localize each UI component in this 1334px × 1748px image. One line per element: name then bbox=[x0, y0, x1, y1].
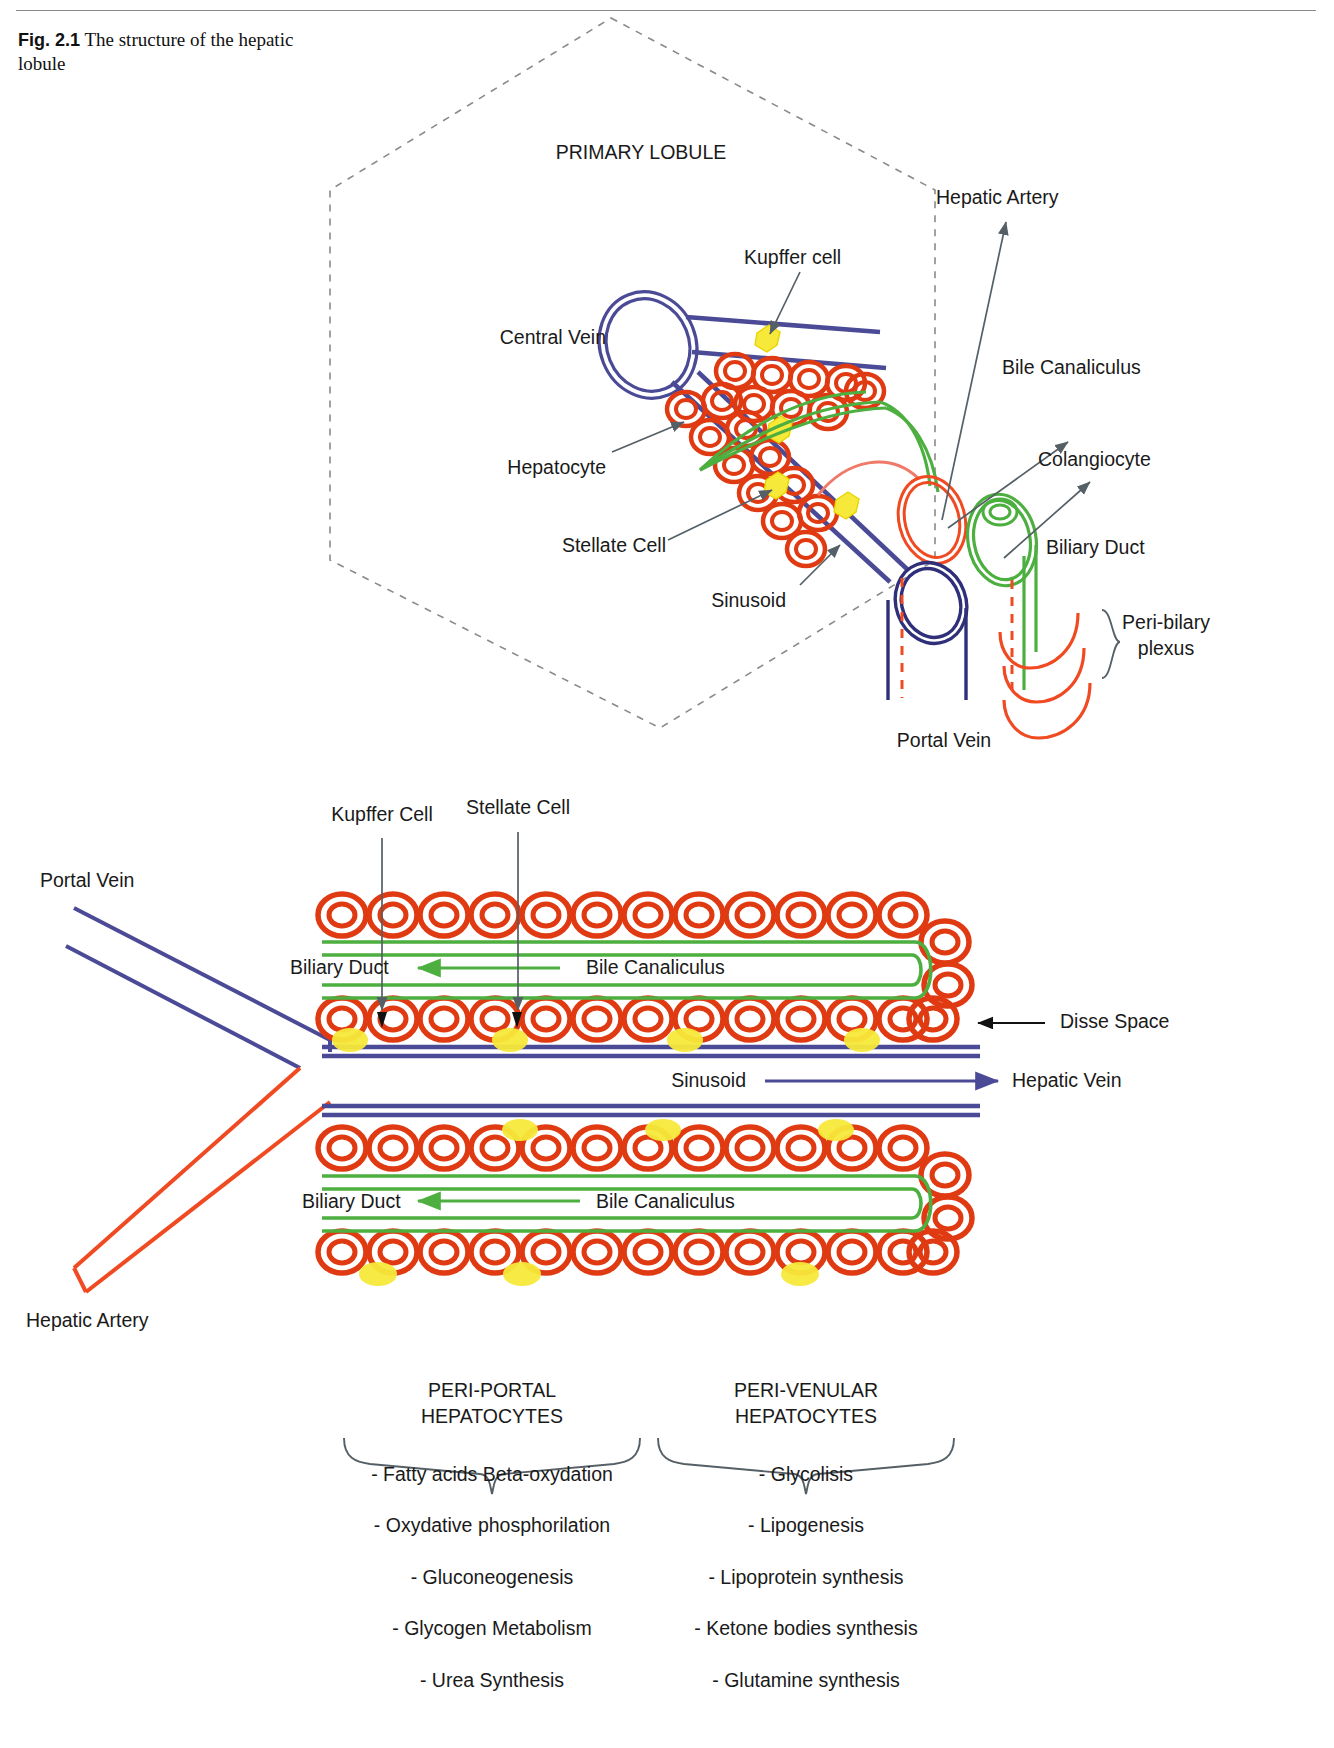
biliary-duct-vessel-top bbox=[961, 489, 1044, 690]
label-kupffer-cell-top: Kupffer cell bbox=[744, 245, 841, 270]
zone-function-item: - Fatty acids Beta-oxydation bbox=[332, 1462, 652, 1488]
label-biliary-duct-top: Biliary Duct bbox=[1046, 535, 1145, 560]
zone-function-item: - Urea Synthesis bbox=[332, 1668, 652, 1694]
zone-function-item: - Ketone bodies synthesis bbox=[646, 1616, 966, 1642]
label-biliary-duct-lower: Biliary Duct bbox=[302, 1189, 401, 1214]
zone-function-item: - Glycogen Metabolism bbox=[332, 1616, 652, 1642]
leader-stellate-top bbox=[668, 490, 772, 540]
label-sinusoid-bottom: Sinusoid bbox=[596, 1068, 746, 1093]
hepatocyte-row-upper-1 bbox=[318, 894, 972, 1006]
label-peribilary-plexus: Peri-bilary plexus bbox=[1082, 610, 1250, 661]
hepatic-artery-vessel-top bbox=[889, 469, 974, 570]
label-hepatic-vein: Hepatic Vein bbox=[1012, 1068, 1122, 1093]
portal-vein-branch-bottom bbox=[66, 908, 330, 1068]
label-portal-vein-bottom: Portal Vein bbox=[40, 868, 134, 893]
label-hepatic-artery-top: Hepatic Artery bbox=[936, 185, 1058, 210]
label-portal-vein-top: Portal Vein bbox=[838, 728, 1050, 753]
label-biliary-duct-upper: Biliary Duct bbox=[290, 955, 389, 980]
zone-functions-peri-venular: - Glycolisis - Lipogenesis - Lipoprotein… bbox=[646, 1436, 966, 1719]
zone-function-item: - Glutamine synthesis bbox=[646, 1668, 966, 1694]
label-colangiocyte-top: Colangiocyte bbox=[1038, 447, 1151, 472]
leader-hepatocyte-top bbox=[612, 422, 684, 452]
label-central-vein-top: Central Vein bbox=[400, 325, 606, 350]
label-bile-canaliculus-top: Bile Canaliculus bbox=[1002, 355, 1141, 380]
hepatic-artery-branch-bottom bbox=[74, 1068, 330, 1292]
primary-lobule-title: PRIMARY LOBULE bbox=[536, 140, 746, 165]
zone-function-item: - Lipoprotein synthesis bbox=[646, 1565, 966, 1591]
label-bile-canaliculus-lower: Bile Canaliculus bbox=[596, 1189, 735, 1214]
label-sinusoid-top: Sinusoid bbox=[620, 588, 786, 613]
disse-space-upper bbox=[322, 1047, 980, 1056]
label-bile-canaliculus-upper: Bile Canaliculus bbox=[586, 955, 725, 980]
label-hepatocyte-top: Hepatocyte bbox=[420, 455, 606, 480]
hepatocyte-row-lower-1 bbox=[318, 1127, 972, 1239]
kupffer-cells-upper bbox=[377, 1012, 522, 1028]
zone-function-item: - Lipogenesis bbox=[646, 1513, 966, 1539]
zone-functions-peri-portal: - Fatty acids Beta-oxydation - Oxydative… bbox=[332, 1436, 652, 1719]
zone-function-item: - Glycolisis bbox=[646, 1462, 966, 1488]
disse-space-lower bbox=[322, 1106, 980, 1115]
zone-title-peri-portal: PERI-PORTAL HEPATOCYTES bbox=[352, 1378, 632, 1429]
label-stellate-cell-bottom: Stellate Cell bbox=[438, 795, 598, 820]
zone-function-item: - Oxydative phosphorilation bbox=[332, 1513, 652, 1539]
label-hepatic-artery-bottom: Hepatic Artery bbox=[26, 1308, 148, 1333]
leader-hepatic-artery-top bbox=[942, 222, 1006, 520]
label-stellate-cell-top: Stellate Cell bbox=[470, 533, 666, 558]
zone-title-peri-venular: PERI-VENULAR HEPATOCYTES bbox=[666, 1378, 946, 1429]
label-disse-space: Disse Space bbox=[1060, 1009, 1169, 1034]
hepatocyte-row-lower-2 bbox=[318, 1231, 957, 1273]
zone-function-item: - Gluconeogenesis bbox=[332, 1565, 652, 1591]
